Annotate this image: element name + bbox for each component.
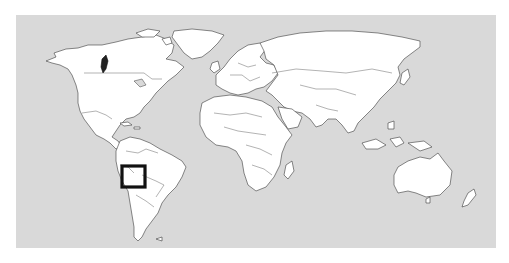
- south-america: [116, 137, 186, 241]
- north-america: [46, 29, 224, 149]
- africa: [200, 95, 302, 191]
- world-map: [16, 15, 496, 248]
- oceania: [394, 153, 476, 207]
- world-map-frame: [16, 15, 496, 248]
